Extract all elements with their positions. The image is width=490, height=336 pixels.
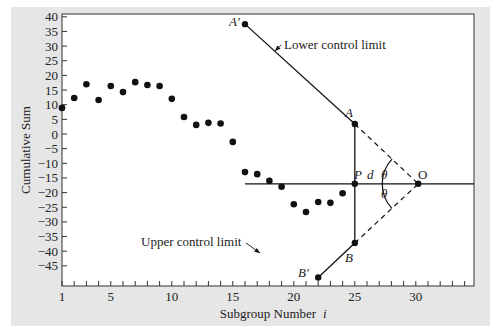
x-tick-label: 20 <box>287 289 300 304</box>
data-point <box>217 120 224 127</box>
data-point <box>303 209 310 216</box>
x-tick-label: 10 <box>165 289 178 304</box>
data-point <box>193 122 200 129</box>
x-tick-label: 25 <box>348 289 361 304</box>
point-b-prime-label: B′ <box>298 265 309 280</box>
point-a-prime <box>242 21 248 27</box>
y-tick-label: −30 <box>38 214 58 229</box>
data-point <box>291 201 298 208</box>
data-point <box>95 97 102 104</box>
data-point <box>230 139 237 146</box>
y-tick-label: 15 <box>45 83 58 98</box>
data-point <box>144 82 151 89</box>
y-tick-label: −35 <box>38 229 58 244</box>
d-label: d <box>367 167 374 182</box>
theta-upper-label: θ <box>381 167 388 182</box>
point-b-prime <box>315 274 321 280</box>
data-point <box>169 96 176 103</box>
cusum-v-mask-chart: 4035302520151050−5−10−15−20−25−30−35−40−… <box>0 0 490 336</box>
y-tick-label: −10 <box>38 156 58 171</box>
y-tick-label: −5 <box>44 141 58 156</box>
x-tick-label: 5 <box>108 289 115 304</box>
y-tick-label: 40 <box>45 9 58 24</box>
point-b <box>352 240 358 246</box>
data-point <box>71 95 78 102</box>
data-point <box>278 183 285 190</box>
data-point <box>181 114 188 121</box>
y-tick-label: 10 <box>45 97 58 112</box>
data-point <box>315 199 322 206</box>
data-point <box>120 89 127 96</box>
y-tick-label: 5 <box>52 112 59 127</box>
data-point <box>242 169 249 176</box>
data-point <box>132 79 139 86</box>
x-axis-label: Subgroup Number <box>220 306 317 321</box>
data-point <box>59 105 66 112</box>
point-a-label: A <box>344 105 353 120</box>
data-point <box>108 83 115 90</box>
data-point <box>327 200 334 207</box>
data-point <box>156 83 163 90</box>
y-tick-label: 0 <box>52 127 59 142</box>
y-tick-label: 25 <box>45 53 58 68</box>
y-tick-label: 20 <box>45 68 58 83</box>
point-a <box>352 121 358 127</box>
x-tick-label: 1 <box>59 289 66 304</box>
point-o-label: O <box>418 167 427 182</box>
x-axis-variable: i <box>323 306 327 321</box>
data-point <box>83 81 90 88</box>
data-point <box>254 171 261 178</box>
data-point <box>339 190 346 197</box>
upper-control-limit-label: Upper control limit <box>141 234 242 249</box>
y-tick-label: −45 <box>38 258 58 273</box>
data-point <box>266 178 273 185</box>
y-tick-label: −40 <box>38 244 58 259</box>
y-tick-label: 35 <box>45 24 58 39</box>
x-tick-label: 15 <box>226 289 239 304</box>
point-p-label: P <box>353 167 362 182</box>
y-tick-label: −25 <box>38 200 58 215</box>
point-a-prime-label: A′ <box>228 14 240 29</box>
plot-area <box>62 14 474 286</box>
y-axis-label: Cumulative Sum <box>18 106 33 194</box>
x-axis-label-text: Subgroup Number <box>220 306 317 321</box>
y-tick-label: −20 <box>38 185 58 200</box>
x-tick-label: 30 <box>409 289 422 304</box>
data-point <box>205 120 212 127</box>
point-b-label: B <box>345 250 353 265</box>
theta-lower-label: θ <box>381 186 388 201</box>
y-tick-label: −15 <box>38 170 58 185</box>
y-tick-label: 30 <box>45 39 58 54</box>
lower-control-limit-label: Lower control limit <box>284 37 386 52</box>
